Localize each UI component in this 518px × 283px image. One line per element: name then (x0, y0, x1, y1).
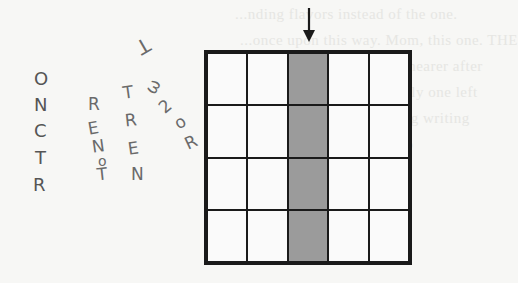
handwritten-letter: T (122, 83, 135, 101)
handwritten-letter: R (124, 111, 138, 129)
grid-cell-shaded (288, 210, 328, 262)
grid-cell (207, 158, 247, 210)
grid-cell (207, 210, 247, 262)
handwritten-letter: o (171, 113, 189, 133)
grid-cell (247, 53, 287, 105)
handwritten-letter: T (133, 34, 154, 57)
grid-cell-shaded (288, 158, 328, 210)
grid-cell (207, 53, 247, 105)
grid-cell (247, 105, 287, 157)
handwritten-letter: ω (142, 76, 164, 97)
handwritten-letter: R (182, 132, 200, 152)
background-text-line: ...nding flavors instead of the one. (235, 6, 458, 23)
grid-cell-shaded (288, 53, 328, 105)
grid-cell (247, 158, 287, 210)
grid-cell-shaded (288, 105, 328, 157)
handwritten-letter: T (96, 166, 108, 184)
grid-cell (328, 53, 368, 105)
background-text-line: ...once upon this way. Mom, this one. TH… (240, 32, 518, 49)
handwritten-letter: T (35, 149, 46, 167)
handwritten-letter: E (127, 139, 140, 157)
handwritten-letter: C (34, 122, 47, 140)
grid-cell (328, 210, 368, 262)
handwritten-letter: N (34, 96, 47, 114)
handwritten-letter: N (131, 166, 144, 183)
handwritten-letter: R (88, 96, 100, 113)
handwritten-letter: O (34, 70, 48, 88)
grid-cell (369, 210, 409, 262)
down-arrow-icon (302, 8, 316, 42)
grid-cell (247, 210, 287, 262)
grid-cell (369, 53, 409, 105)
grid-cell (207, 105, 247, 157)
grid-cell (328, 105, 368, 157)
grid-diagram (204, 50, 412, 265)
grid-cell (369, 105, 409, 157)
grid-cell (369, 158, 409, 210)
grid-cell (328, 158, 368, 210)
handwritten-letter: R (33, 176, 46, 194)
